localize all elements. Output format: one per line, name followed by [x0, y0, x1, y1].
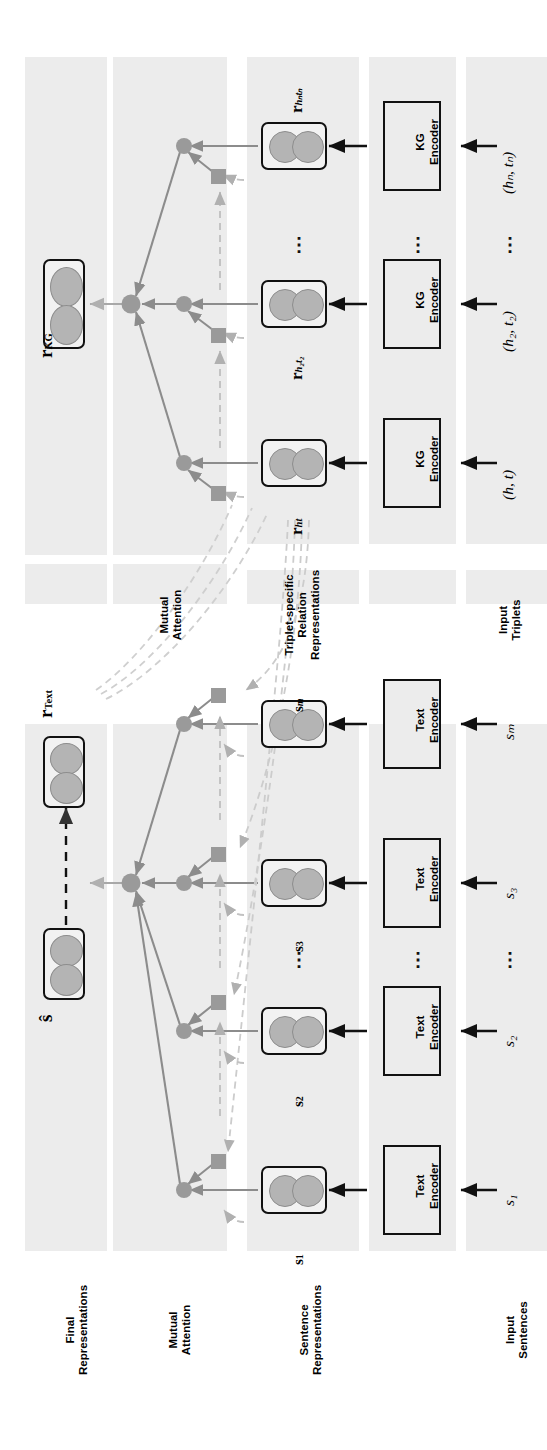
- input-triplet-3: (hₙ, tₙ): [499, 152, 517, 194]
- stage-label-input-sentences: Input Sentences: [504, 1230, 530, 1430]
- input-sentence-2: s₂: [500, 1036, 518, 1047]
- final-capsule-s-hat: [43, 928, 85, 1000]
- final-label-s-hat: ŝ: [35, 1015, 57, 1022]
- text-encoder-3-label: Text Encoder: [414, 834, 441, 924]
- sentence-capsule-2: [261, 1007, 327, 1055]
- capsule-unit: [50, 935, 83, 967]
- kg-encoder-3-label: KG Encoder: [414, 97, 441, 187]
- input-triplet-2: (h₂, t₂): [499, 311, 517, 352]
- kg-relation-label-1: rht: [287, 519, 307, 535]
- kg-relation-label-3: rhₙtₙ: [287, 89, 307, 113]
- input-sentence-1: s₁: [500, 1195, 518, 1206]
- ellipsis-kg-inputs: ⋯: [509, 234, 510, 255]
- stage-label-mutual-attention-text: Mutual Attention: [167, 1230, 193, 1430]
- input-triplet-1: (h, t): [499, 470, 517, 500]
- sentence-capsule-3: [261, 859, 327, 907]
- text-encoder-4: Text Encoder: [383, 679, 441, 769]
- capsule-unit: [292, 1175, 324, 1207]
- stage-label-input-triplets: Input Triplets: [497, 560, 523, 680]
- final-label-r-kg: rKG: [35, 333, 57, 358]
- stage-label-final-representations: Final Representations: [64, 1230, 90, 1430]
- text-encoder-3: Text Encoder: [383, 838, 441, 928]
- sentence-rep-label-2: s2: [290, 1096, 307, 1107]
- kg-relation-capsule-3: [261, 122, 327, 170]
- capsule-unit: [50, 772, 83, 804]
- ellipsis-text-encoders: ⋯: [417, 949, 418, 970]
- stage-label-sentence-representations: Sentence Representations: [298, 1230, 324, 1430]
- kg-relation-capsule-1: [261, 439, 327, 487]
- ellipsis-kg-reps: ⋯: [298, 234, 299, 255]
- input-sentence-3: s₃: [500, 888, 518, 899]
- figure-canvas: KG Encoder KG Encoder KG Encoder Text En…: [0, 0, 547, 1450]
- kg-encoder-3: KG Encoder: [383, 101, 441, 191]
- text-encoder-1-label: Text Encoder: [414, 1141, 441, 1231]
- kg-relation-capsule-2: [261, 280, 327, 328]
- sentence-rep-label-4: sm: [290, 698, 307, 712]
- capsule-unit: [292, 448, 324, 480]
- kg-relation-label-2: rh₂t₂: [287, 356, 307, 380]
- capsule-unit: [50, 743, 83, 775]
- kg-encoder-1: KG Encoder: [383, 418, 441, 508]
- final-capsule-r-text: [43, 736, 85, 808]
- ellipsis-text-inputs: ⋯: [509, 949, 510, 970]
- text-encoder-4-label: Text Encoder: [414, 675, 441, 765]
- capsule-unit: [292, 289, 324, 321]
- capsule-unit: [292, 709, 324, 741]
- capsule-unit: [292, 131, 324, 163]
- stage-label-triplet-relation: Triplet-specific Relation Representation…: [283, 540, 322, 690]
- kg-encoder-1-label: KG Encoder: [414, 414, 441, 504]
- text-encoder-2: Text Encoder: [383, 986, 441, 1076]
- kg-encoder-2: KG Encoder: [383, 259, 441, 349]
- capsule-unit: [50, 964, 83, 996]
- ellipsis-text-reps: ⋯: [298, 949, 299, 970]
- text-encoder-1: Text Encoder: [383, 1145, 441, 1235]
- final-label-r-text: rText: [35, 690, 57, 718]
- input-sentence-4: sₘ: [500, 724, 518, 740]
- capsule-unit: [292, 1016, 324, 1048]
- capsule-unit: [292, 868, 324, 900]
- kg-encoder-2-label: KG Encoder: [414, 255, 441, 345]
- sentence-capsule-1: [261, 1166, 327, 1214]
- capsule-unit: [50, 267, 83, 307]
- ellipsis-kg-encoders: ⋯: [417, 234, 418, 255]
- stage-label-mutual-attention-kg: Mutual Attention: [158, 550, 184, 680]
- text-encoder-2-label: Text Encoder: [414, 982, 441, 1072]
